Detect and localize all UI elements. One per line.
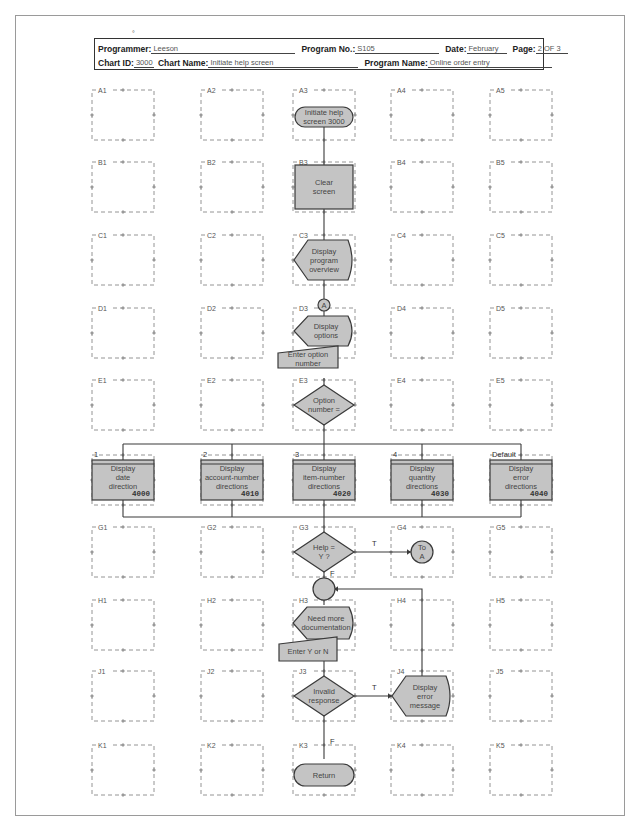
symbol-text: directions [216, 482, 248, 491]
grid-cell-B2: B2 [199, 158, 265, 214]
symbol-text: Need more [307, 614, 344, 623]
case-branch-label: 4 [393, 450, 397, 459]
grid-label: D3 [299, 305, 308, 312]
grid-cell-G5: G5 [488, 523, 554, 579]
symbol-text: date [116, 473, 131, 482]
symbol-text: To [418, 543, 426, 552]
node-j4-display: Displayerrormessage [392, 676, 450, 716]
case-branch-label: 2 [203, 450, 207, 459]
grid-cell-D2: D2 [199, 304, 265, 360]
grid-cell-D1: D1 [90, 304, 156, 360]
symbol-text: Display [312, 247, 337, 256]
flowchart: A1A2A3A4A5B1B2B3B4B5C1C2C3C4C5D1D2D3D4D5… [0, 0, 636, 833]
grid-label: D2 [207, 305, 216, 312]
case-branch-label: 3 [295, 450, 299, 459]
grid-label: C1 [98, 232, 107, 239]
grid-cell-K2: K2 [199, 741, 265, 797]
symbol-text: Y ? [318, 552, 329, 561]
grid-label: J5 [496, 668, 504, 675]
arrow-head-icon [407, 549, 411, 555]
symbol-text: Enter option [288, 350, 328, 359]
grid-cell-C4: C4 [389, 231, 455, 287]
grid-label: K1 [98, 742, 107, 749]
module-number: 4040 [530, 490, 549, 498]
grid-label: E3 [299, 377, 308, 384]
grid-cell-G2: G2 [199, 523, 265, 579]
grid-cell-H1: H1 [90, 596, 156, 652]
node-c3-display: Displayprogramoverview [294, 240, 352, 280]
symbol-text: number [295, 359, 321, 368]
grid-label: J3 [299, 668, 307, 675]
grid-label: E5 [496, 377, 505, 384]
symbol-text: message [410, 701, 440, 710]
grid-label: D4 [397, 305, 406, 312]
symbol-text: direction [109, 482, 137, 491]
node-d3-display: Displayoptions [294, 316, 352, 346]
symbol-text: screen [313, 187, 336, 196]
module-number: 4030 [431, 490, 450, 498]
symbol-text: A [321, 301, 326, 310]
edge-label-j3-true: T [372, 683, 377, 692]
grid-cell-E5: E5 [488, 376, 554, 432]
grid-cell-D5: D5 [488, 304, 554, 360]
grid-label: A1 [98, 87, 107, 94]
symbol-text: error [417, 692, 433, 701]
symbol-text: overview [309, 265, 339, 274]
grid-label: C2 [207, 232, 216, 239]
grid-label: G4 [397, 524, 406, 531]
grid-label: H3 [299, 597, 308, 604]
grid-cell-C1: C1 [90, 231, 156, 287]
grid-label: D5 [496, 305, 505, 312]
grid-label: H2 [207, 597, 216, 604]
grid-cell-K5: K5 [488, 741, 554, 797]
grid-cell-C2: C2 [199, 231, 265, 287]
grid-cell-K1: K1 [90, 741, 156, 797]
grid-label: B2 [207, 159, 216, 166]
grid-cell-B4: B4 [389, 158, 455, 214]
grid-label: A5 [496, 87, 505, 94]
grid-cell-H2: H2 [199, 596, 265, 652]
grid-label: J2 [207, 668, 215, 675]
node-g4-connector: ToA [411, 541, 433, 563]
case-branch-label: Default [492, 450, 517, 459]
symbol-text: Display [220, 464, 245, 473]
node-k3-terminal: Return [294, 764, 354, 786]
grid-cell-J1: J1 [90, 667, 156, 723]
grid-cell-J2: J2 [199, 667, 265, 723]
symbol-text: program [310, 256, 338, 265]
node-d3-input-manual-input: Enter optionnumber [278, 346, 338, 368]
symbol-text: Display [509, 464, 534, 473]
case-branch-label: 1 [94, 450, 98, 459]
node-b3-process: Clearscreen [295, 165, 353, 209]
node-conna-connector: A [318, 299, 330, 311]
grid-label: H4 [397, 597, 406, 604]
symbol-text: Initiate help [305, 108, 343, 117]
symbol-text: Display [410, 464, 435, 473]
symbol-text: item-number [303, 473, 346, 482]
grid-label: C4 [397, 232, 406, 239]
grid-cell-G1: G1 [90, 523, 156, 579]
grid-label: H5 [496, 597, 505, 604]
grid-cell-E4: E4 [389, 376, 455, 432]
grid-cell-A1: A1 [90, 86, 156, 142]
grid-label: A2 [207, 87, 216, 94]
grid-cell-C5: C5 [488, 231, 554, 287]
grid-label: K4 [397, 742, 406, 749]
grid-cell-E1: E1 [90, 376, 156, 432]
grid-label: K3 [299, 742, 308, 749]
grid-label: C3 [299, 232, 308, 239]
symbol-text: Clear [315, 178, 333, 187]
grid-cell-B1: B1 [90, 158, 156, 214]
symbol-text: account-number [205, 473, 260, 482]
module-number: 4020 [333, 490, 352, 498]
grid-cell-E2: E2 [199, 376, 265, 432]
grid-label: A4 [397, 87, 406, 94]
node-h3-display: Need moredocumentation [293, 607, 353, 639]
edge-layer [123, 126, 521, 759]
grid-cell-J5: J5 [488, 667, 554, 723]
grid-cell-A4: A4 [389, 86, 455, 142]
grid-cell-H5: H5 [488, 596, 554, 652]
grid-cell-K4: K4 [389, 741, 455, 797]
symbol-text: A [419, 552, 424, 561]
grid-cell-D4: D4 [389, 304, 455, 360]
